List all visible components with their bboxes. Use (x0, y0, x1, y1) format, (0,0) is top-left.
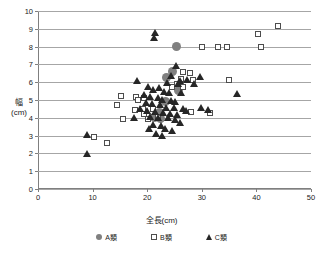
x-tick-label-0: 0 (36, 193, 40, 202)
data-point-B類-0 (275, 23, 281, 29)
y-tick-label-3: 3 (29, 131, 33, 140)
y-tick-mark-7 (35, 64, 38, 65)
legend-item-A類[interactable]: A類 (96, 232, 117, 242)
data-point-B類-17 (114, 102, 120, 108)
data-point-B類-1 (255, 31, 261, 37)
data-point-C類-9 (190, 80, 198, 87)
y-tick-label-8: 8 (29, 42, 33, 51)
y-tick-mark-4 (35, 118, 38, 119)
data-point-C類-16 (177, 89, 185, 96)
legend-item-C類[interactable]: C類 (206, 232, 227, 242)
legend-item-B類[interactable]: B類 (151, 232, 172, 242)
y-tick-mark-1 (35, 171, 38, 172)
data-point-C類-2 (172, 62, 180, 69)
gridline-y-3 (38, 136, 311, 137)
data-point-C類-37 (146, 113, 154, 120)
square-marker-icon (151, 234, 157, 240)
data-point-C類-47 (158, 132, 166, 139)
data-point-B類-3 (215, 44, 221, 50)
y-tick-label-6: 6 (29, 78, 33, 87)
data-point-C類-41 (176, 119, 184, 126)
data-point-B類-5 (258, 44, 264, 50)
x-tick-label-40: 40 (252, 193, 260, 202)
x-tick-mark-10 (93, 189, 94, 192)
data-point-B類-14 (118, 93, 124, 99)
data-point-C類-50 (168, 127, 176, 134)
data-point-C類-3 (196, 73, 204, 80)
data-point-A類-0 (172, 42, 181, 51)
y-tick-label-0: 0 (29, 185, 33, 194)
data-point-B類-29 (104, 140, 110, 146)
data-point-C類-51 (145, 125, 153, 132)
data-point-C類-8 (163, 79, 171, 86)
data-point-C類-6 (174, 80, 182, 87)
data-point-B類-20 (120, 116, 126, 122)
y-tick-label-4: 4 (29, 113, 33, 122)
gridline-y-2 (38, 153, 311, 154)
y-tick-mark-5 (35, 100, 38, 101)
data-point-C類-1 (150, 34, 158, 41)
data-point-C類-36 (182, 107, 190, 114)
data-point-C類-38 (154, 114, 162, 121)
x-tick-label-10: 10 (88, 193, 96, 202)
y-tick-label-5: 5 (29, 96, 33, 105)
x-axis-title: 全長(cm) (0, 214, 323, 225)
y-tick-label-2: 2 (29, 149, 33, 158)
x-tick-label-20: 20 (143, 193, 151, 202)
data-point-C類-10 (133, 77, 141, 84)
data-point-C類-52 (136, 105, 144, 112)
x-tick-mark-20 (147, 189, 148, 192)
gridline-y-9 (38, 29, 311, 30)
y-tick-mark-6 (35, 82, 38, 83)
gridline-y-0 (38, 189, 311, 190)
y-tick-label-1: 1 (29, 167, 33, 176)
x-tick-label-50: 50 (307, 193, 315, 202)
y-tick-mark-2 (35, 153, 38, 154)
gridline-y-1 (38, 171, 311, 172)
triangle-marker-icon (206, 234, 212, 240)
data-point-B類-28 (91, 134, 97, 140)
x-tick-mark-0 (38, 189, 39, 192)
x-tick-mark-50 (311, 189, 312, 192)
plot-area: 012345678910 01020304050 (38, 11, 311, 189)
y-tick-mark-3 (35, 136, 38, 137)
y-tick-mark-9 (35, 29, 38, 30)
x-tick-label-30: 30 (198, 193, 206, 202)
legend-item-label: C類 (215, 232, 227, 242)
y-tick-label-10: 10 (25, 7, 33, 16)
data-point-C類-42 (204, 106, 212, 113)
y-tick-mark-8 (35, 47, 38, 48)
data-point-C類-48 (83, 131, 91, 138)
data-point-B類-2 (199, 44, 205, 50)
data-point-B類-10 (226, 77, 232, 83)
data-point-C類-49 (83, 150, 91, 157)
gridline-y-10 (38, 11, 311, 12)
circle-marker-icon (96, 234, 102, 240)
chart-legend: A類B類C類 (0, 232, 323, 242)
x-tick-mark-40 (256, 189, 257, 192)
legend-item-label: B類 (160, 232, 172, 242)
data-point-C類-53 (130, 114, 138, 121)
data-point-B類-4 (224, 44, 230, 50)
y-tick-label-9: 9 (29, 24, 33, 33)
data-point-B類-6 (180, 69, 186, 75)
x-tick-mark-30 (202, 189, 203, 192)
y-tick-mark-10 (35, 11, 38, 12)
data-point-C類-17 (233, 90, 241, 97)
legend-item-label: A類 (105, 232, 117, 242)
data-point-C類-25 (148, 100, 156, 107)
y-tick-label-7: 7 (29, 60, 33, 69)
scatter-chart: 幅 (cm) 012345678910 01020304050 全長(cm) A… (0, 0, 323, 255)
